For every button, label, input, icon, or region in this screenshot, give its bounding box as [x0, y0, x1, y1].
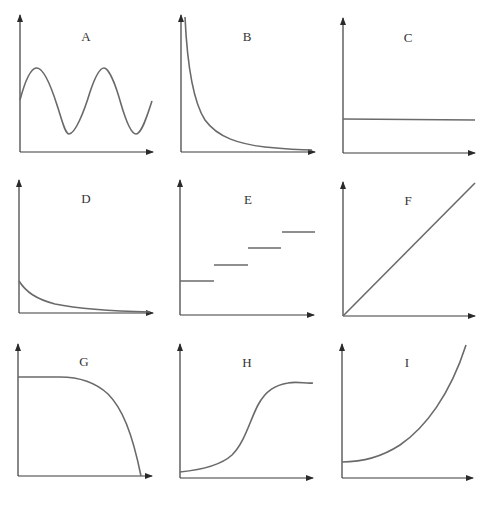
constant-line: [343, 119, 475, 120]
step-lines: [180, 232, 315, 281]
panel-label: E: [244, 192, 252, 207]
panel-h: H: [180, 344, 313, 478]
panel-label: C: [404, 30, 413, 45]
panel-label: G: [79, 354, 88, 369]
panel-g: G: [18, 344, 152, 476]
panel-i: I: [342, 344, 473, 478]
panel-label: F: [404, 193, 411, 208]
panel-label: A: [81, 29, 91, 44]
panel-b: B: [181, 15, 315, 152]
decay-curve: [19, 281, 150, 312]
panel-f: F: [343, 182, 475, 316]
panel-c: C: [343, 18, 475, 153]
panel-label: B: [243, 29, 252, 44]
panel-label: I: [405, 355, 409, 370]
graph-grid: A B C D E F: [0, 0, 491, 507]
sigmoid-curve: [180, 382, 313, 472]
panel-label: D: [81, 191, 90, 206]
panel-e: E: [180, 180, 315, 315]
declining-curve: [18, 377, 141, 476]
panel-label: H: [242, 355, 251, 370]
panel-d: D: [19, 180, 153, 313]
sine-curve: [20, 68, 152, 134]
panel-a: A: [20, 15, 153, 152]
